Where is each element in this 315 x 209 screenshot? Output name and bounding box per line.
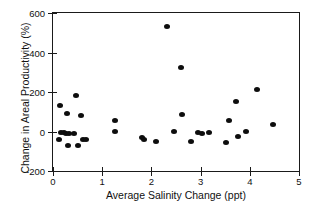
x-tick-label: 2 [149, 176, 154, 187]
y-tick-label: 200 [29, 87, 45, 98]
data-point [164, 24, 170, 29]
data-point [73, 93, 79, 98]
x-tick-mark-inner [102, 167, 103, 171]
x-tick-mark-inner [201, 167, 202, 171]
y-axis-title: Change in Areal Productivity (%) [19, 12, 31, 184]
x-axis-title: Average Salinity Change (ppt) [52, 189, 300, 201]
x-tick-label: 3 [198, 176, 203, 187]
data-point [171, 129, 177, 134]
y-tick-label: 600 [29, 8, 45, 19]
x-tick-label: 0 [50, 176, 55, 187]
y-tick-label: 400 [29, 47, 45, 58]
data-point [83, 137, 89, 142]
x-tick-label: 4 [247, 176, 252, 187]
data-point [199, 131, 205, 136]
data-point [71, 131, 77, 136]
y-tick-mark-inner [53, 92, 57, 93]
data-point [141, 137, 147, 142]
data-point [179, 112, 185, 117]
data-point [243, 129, 249, 134]
data-point [75, 143, 81, 148]
x-tick-label: 1 [100, 176, 105, 187]
data-point [56, 137, 62, 142]
data-point [78, 113, 84, 118]
data-point [254, 87, 260, 92]
data-point [112, 129, 118, 134]
x-tick-label: 5 [296, 176, 301, 187]
data-point [226, 118, 232, 123]
data-point [57, 103, 63, 108]
x-tick-mark-inner [299, 167, 300, 171]
y-tick-mark-inner [53, 13, 57, 14]
data-point [178, 65, 184, 70]
plot-data-area [53, 13, 299, 171]
x-tick-mark-inner [151, 167, 152, 171]
x-tick-mark-inner [53, 167, 54, 171]
y-tick-mark-inner [53, 53, 57, 54]
data-point [64, 111, 70, 116]
data-point [223, 140, 229, 145]
data-point [206, 130, 212, 135]
data-point [112, 118, 118, 123]
data-point [153, 139, 159, 144]
x-tick-mark-inner [250, 167, 251, 171]
y-tick-label: 0 [40, 126, 45, 137]
data-point [270, 122, 276, 127]
y-tick-label: -200 [26, 166, 45, 177]
scatter-plot-figure: Change in Areal Productivity (%) -200020… [0, 0, 315, 209]
data-point [65, 143, 71, 148]
data-point [233, 99, 239, 104]
data-point [188, 139, 194, 144]
data-point [235, 134, 241, 139]
y-tick-mark-inner [53, 132, 57, 133]
plot-frame: -2000200400600 012345 [52, 12, 300, 172]
